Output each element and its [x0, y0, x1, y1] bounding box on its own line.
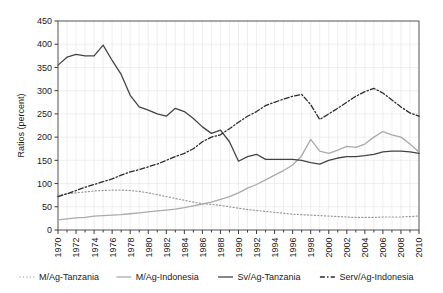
x-axis-tick-label: 1976 — [108, 238, 118, 258]
x-axis-tick-label: 2006 — [378, 238, 388, 258]
x-axis-tick-label: 1972 — [71, 238, 81, 258]
x-axis-tick-label: 2008 — [396, 238, 406, 258]
x-axis-tick-label: 2010 — [414, 238, 424, 258]
x-axis-tick-label: 1988 — [216, 238, 226, 258]
x-axis-tick-label: 1986 — [198, 238, 208, 258]
y-axis-tick-label: 0 — [47, 225, 52, 235]
x-axis-tick-label: 1970 — [53, 238, 63, 258]
ratios-line-chart: 0501001502002503003504004501970197219741… — [0, 0, 443, 293]
legend-label-3: Serv/Ag-Indonesia — [339, 272, 413, 282]
x-axis-tick-label: 1992 — [252, 238, 262, 258]
y-axis-tick-label: 100 — [37, 179, 52, 189]
x-axis-tick-label: 1998 — [306, 238, 316, 258]
y-axis-tick-label: 250 — [37, 109, 52, 119]
y-axis-tick-label: 50 — [42, 202, 52, 212]
chart-figure: 0501001502002503003504004501970197219741… — [0, 0, 443, 293]
y-axis-tick-label: 150 — [37, 156, 52, 166]
y-axis-tick-label: 400 — [37, 39, 52, 49]
x-axis-tick-label: 1994 — [270, 238, 280, 258]
x-axis-tick-label: 2004 — [360, 238, 370, 258]
legend-label-0: M/Ag-Tanzania — [39, 272, 99, 282]
y-axis-title: Ratios (percent) — [16, 93, 26, 157]
legend-label-1: M/Ag-Indonesia — [136, 272, 199, 282]
x-axis-tick-label: 1984 — [180, 238, 190, 258]
legend-label-2: Sv/Ag-Tanzania — [238, 272, 301, 282]
x-axis-tick-label: 1996 — [288, 238, 298, 258]
y-axis-tick-label: 300 — [37, 86, 52, 96]
x-axis-tick-label: 1978 — [126, 238, 136, 258]
y-axis-tick-label: 350 — [37, 63, 52, 73]
x-axis-tick-label: 1990 — [234, 238, 244, 258]
x-axis-tick-label: 2000 — [324, 238, 334, 258]
x-axis-tick-label: 1980 — [144, 238, 154, 258]
x-axis-tick-label: 1974 — [90, 238, 100, 258]
x-axis-tick-label: 1982 — [162, 238, 172, 258]
x-axis-tick-label: 2002 — [342, 238, 352, 258]
y-axis-tick-label: 200 — [37, 132, 52, 142]
y-axis-tick-label: 450 — [37, 16, 52, 26]
